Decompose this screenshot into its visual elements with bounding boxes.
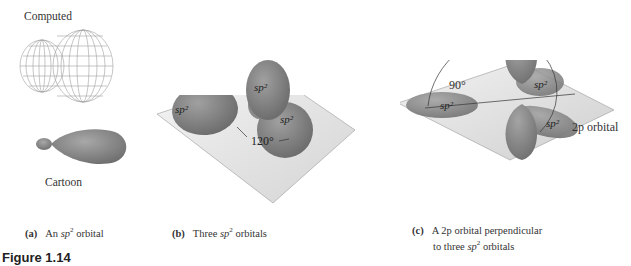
sp2-lobe-label-left: sp² — [175, 103, 189, 115]
svg-text:sp²: sp² — [440, 99, 454, 111]
caption-c-italic: sp — [467, 241, 476, 252]
caption-b-italic: sp — [220, 228, 229, 239]
caption-c: (c)A 2p orbital perpendicular to three s… — [412, 224, 542, 253]
computed-mesh-orbital — [15, 28, 115, 104]
caption-a-post: orbital — [74, 228, 104, 239]
svg-text:sp²: sp² — [534, 78, 548, 90]
p-orbital-label: 2p orbital — [572, 120, 618, 135]
caption-b-pre: Three — [193, 228, 220, 239]
computed-label: Computed — [24, 10, 72, 22]
caption-c-line1: A 2p orbital perpendicular — [432, 225, 543, 236]
svg-text:sp²: sp² — [546, 117, 560, 129]
caption-c-tag: (c) — [412, 225, 424, 236]
angle-120-label: 120° — [251, 134, 274, 148]
cartoon-label: Cartoon — [45, 176, 82, 188]
sp2-top-lobe: sp² — [240, 55, 300, 125]
caption-b-tag: (b) — [172, 228, 185, 239]
p-orbital-perpendicular-diagram: sp² sp² sp² — [400, 60, 631, 210]
caption-a: (a)An sp2 orbital — [25, 224, 104, 240]
svg-text:sp²: sp² — [254, 81, 268, 93]
caption-a-pre: An — [45, 228, 60, 239]
cartoon-orbital — [35, 124, 130, 170]
caption-c-post: orbitals — [480, 241, 514, 252]
caption-a-tag: (a) — [25, 228, 37, 239]
caption-c-line2-pre: to three — [433, 241, 467, 252]
figure-label: Figure 1.14 — [2, 250, 71, 265]
caption-b: (b)Three sp2 orbitals — [172, 224, 267, 240]
angle-90-label: 90° — [449, 78, 466, 93]
caption-b-post: orbitals — [233, 228, 267, 239]
caption-a-italic: sp — [61, 228, 70, 239]
